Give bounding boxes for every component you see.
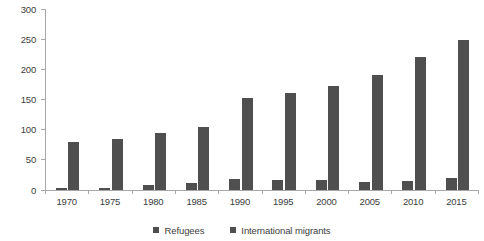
bar	[242, 98, 253, 190]
y-axis-tick: 50	[0, 154, 45, 165]
bar	[186, 183, 197, 190]
legend-label: Refugees	[164, 225, 204, 236]
bar	[402, 181, 413, 190]
legend-swatch-icon	[230, 227, 236, 233]
y-axis-tick-label: 200	[21, 64, 36, 75]
x-axis-tick-mark	[132, 190, 133, 194]
x-axis-tick-mark	[435, 190, 436, 194]
x-axis-tick-label: 1995	[259, 196, 307, 207]
bar	[143, 185, 154, 190]
bar	[328, 86, 339, 190]
x-axis-tick-label: 1985	[173, 196, 221, 207]
x-axis-tick-label: 1990	[216, 196, 264, 207]
y-axis-tick-label: 300	[21, 4, 36, 15]
x-axis-tick-label: 2000	[302, 196, 350, 207]
x-axis-tick-label: 2010	[389, 196, 437, 207]
bar	[56, 188, 67, 190]
bar	[372, 75, 383, 190]
bar	[415, 57, 426, 190]
x-axis-tick-mark	[218, 190, 219, 194]
x-axis-tick-label: 2005	[346, 196, 394, 207]
legend-label: International migrants	[241, 225, 330, 236]
bar	[99, 188, 110, 190]
y-axis-tick-label: 50	[26, 154, 36, 165]
y-axis-tick: 250	[0, 34, 45, 45]
bar	[285, 93, 296, 190]
y-axis-tick-mark	[41, 39, 45, 40]
y-axis-tick: 200	[0, 64, 45, 75]
x-axis-tick-mark	[348, 190, 349, 194]
bars-layer	[46, 9, 479, 190]
bar	[272, 180, 283, 190]
y-axis-tick: 300	[0, 4, 45, 15]
bar	[198, 127, 209, 190]
y-axis-tick-mark	[41, 69, 45, 70]
bar	[316, 180, 327, 190]
bar	[446, 178, 457, 190]
bar	[112, 139, 123, 190]
bar	[359, 182, 370, 190]
x-axis-tick-mark	[262, 190, 263, 194]
bar-chart: Number (millions) 050100150200250300 197…	[0, 0, 484, 241]
legend-item[interactable]: Refugees	[153, 225, 204, 236]
y-axis-tick-label: 150	[21, 94, 36, 105]
x-axis-tick-label: 1975	[86, 196, 134, 207]
x-axis-tick-label: 1980	[129, 196, 177, 207]
x-axis-tick-mark	[305, 190, 306, 194]
bar	[229, 179, 240, 190]
legend-item[interactable]: International migrants	[230, 225, 330, 236]
bar	[68, 142, 79, 190]
legend-swatch-icon	[153, 227, 159, 233]
x-axis-tick-mark	[391, 190, 392, 194]
bar	[458, 40, 469, 190]
x-axis-tick-label: 2015	[432, 196, 480, 207]
x-axis-tick-mark	[45, 190, 46, 194]
y-axis-tick-mark	[41, 159, 45, 160]
y-axis-tick: 100	[0, 124, 45, 135]
x-axis-tick-label: 1970	[43, 196, 91, 207]
y-axis-tick-mark	[41, 99, 45, 100]
y-axis-tick-label: 250	[21, 34, 36, 45]
y-axis-tick-mark	[41, 129, 45, 130]
y-axis-tick: 150	[0, 94, 45, 105]
x-axis-tick-mark	[478, 190, 479, 194]
chart-legend: RefugeesInternational migrants	[0, 222, 484, 238]
y-axis-tick-label: 0	[31, 185, 36, 196]
y-axis-tick-label: 100	[21, 124, 36, 135]
x-axis-tick-mark	[88, 190, 89, 194]
bar	[155, 133, 166, 190]
y-axis-tick: 0	[0, 185, 45, 196]
y-axis-tick-mark	[41, 9, 45, 10]
x-axis-tick-mark	[175, 190, 176, 194]
